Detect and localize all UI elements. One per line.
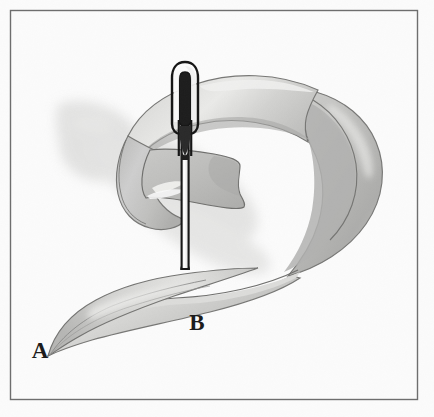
paper-grain-overlay (0, 0, 434, 417)
figure-root: A B (0, 0, 434, 417)
figure-illustration: A B (0, 0, 434, 417)
